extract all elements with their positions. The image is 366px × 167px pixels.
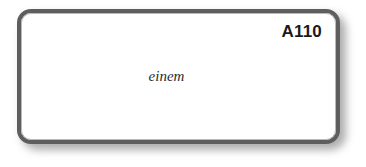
flashcard-canvas: A110 einem (0, 0, 366, 167)
flashcard[interactable]: A110 einem (17, 9, 340, 144)
card-word-text: einem (21, 69, 336, 84)
card-identifier-label: A110 (281, 23, 322, 40)
